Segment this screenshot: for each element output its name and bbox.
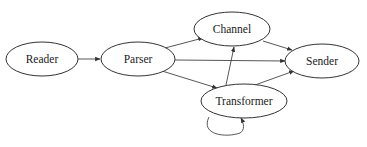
node-transformer: Transformer — [201, 84, 287, 118]
node-parser-label: Parser — [124, 53, 153, 65]
node-transformer-label: Transformer — [215, 95, 272, 107]
node-sender: Sender — [285, 44, 359, 78]
node-channel: Channel — [194, 12, 270, 46]
node-channel-label: Channel — [213, 23, 251, 35]
edge-parser-sender — [175, 60, 285, 61]
edge-transformer-sender — [255, 71, 294, 85]
node-reader: Reader — [6, 42, 78, 76]
node-sender-label: Sender — [306, 55, 338, 67]
edge-transformer-channel — [226, 47, 234, 85]
node-reader-label: Reader — [26, 53, 59, 65]
edge-transformer-self-loop — [207, 117, 243, 135]
node-parser: Parser — [101, 42, 175, 76]
edge-parser-transformer — [162, 71, 217, 88]
edge-parser-channel — [165, 38, 203, 48]
flow-diagram: Reader Parser Channel Sender Transformer — [0, 0, 367, 147]
edge-channel-sender — [263, 41, 292, 50]
